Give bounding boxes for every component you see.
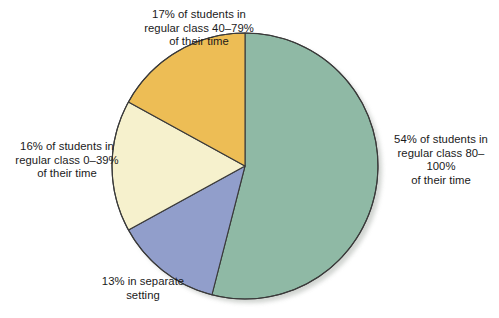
slice-label-regular-class-80-100: 54% of students in regular class 80–100%… <box>384 133 498 187</box>
pie-slice-group: 54% of students in regular class 80–100%… <box>112 33 378 299</box>
slice-label-regular-class-40-79: 17% of students in regular class 40–79% … <box>96 8 302 49</box>
slice-label-regular-class-0-39: 16% of students in regular class 0–39% o… <box>2 140 132 181</box>
pie-chart-figure: 54% of students in regular class 80–100%… <box>0 0 499 318</box>
slice-label-separate-setting: 13% in separate setting <box>70 275 216 302</box>
